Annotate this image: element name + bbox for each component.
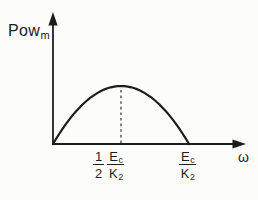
y-axis-label: Powm [8,22,50,40]
fraction-numerator: Ec [107,150,124,165]
x-axis-label-omega: ω [238,149,249,165]
coefficient-fraction: 1 2 [93,150,104,180]
ec-over-k2-fraction: Ec K2 [179,150,196,180]
tick-label-ec-k2: Ec K2 [179,150,196,180]
denominator-base: K [181,167,190,180]
tick-label-half-ec-k2: 1 2 Ec K2 [93,150,124,180]
y-axis-arrowhead-icon [48,12,57,26]
denominator-base: K [109,167,118,180]
numerator-subscript: c [190,156,195,165]
y-axis-label-base: Pow [8,22,40,39]
coefficient-denominator: 2 [95,165,102,180]
ec-over-k2-fraction: Ec K2 [107,150,124,180]
y-axis-label-subscript: m [41,29,50,41]
fraction-numerator: Ec [179,150,196,165]
coefficient-numerator: 1 [93,150,104,165]
fraction-denominator: K2 [181,165,195,180]
denominator-subscript: 2 [118,173,123,182]
denominator-subscript: 2 [190,173,195,182]
x-axis-arrowhead-icon [233,139,247,148]
fraction-denominator: K2 [109,165,123,180]
numerator-base: E [109,150,118,163]
numerator-base: E [181,150,190,163]
numerator-subscript: c [118,156,123,165]
figure-power-vs-omega: Powm ω 1 2 Ec K2 Ec K2 [0,0,258,200]
